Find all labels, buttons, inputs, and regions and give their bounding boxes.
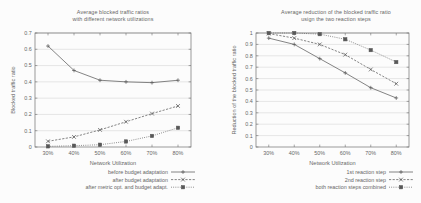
series-3	[46, 126, 179, 148]
marker-plus	[394, 96, 398, 100]
x-axis-label: Network Utilization	[309, 160, 355, 166]
marker-square	[267, 31, 270, 34]
y-tick-label: 0.9	[245, 41, 253, 47]
chart-left-canvas: Average blocked traffic ratioswith diffe…	[0, 0, 205, 203]
y-tick-label: 0	[250, 144, 253, 150]
marker-square	[344, 38, 347, 41]
y-tick-label: 0.1	[24, 128, 32, 134]
x-tick-label: 60%	[340, 150, 351, 156]
marker-plus	[343, 71, 347, 75]
x-tick-label: 50%	[314, 150, 325, 156]
marker-square	[318, 32, 321, 35]
series-2	[46, 104, 180, 143]
x-tick-label: 30%	[263, 150, 274, 156]
x-tick-label: 40%	[69, 150, 80, 156]
chart-title-line: Average blocked traffic ratios	[77, 9, 150, 15]
y-tick-label: 0.8	[245, 53, 253, 59]
y-tick-label: 0.3	[245, 110, 253, 116]
marker-square	[124, 140, 127, 143]
marker-cross	[124, 120, 128, 124]
marker-cross	[150, 112, 154, 116]
marker-plus	[98, 78, 102, 82]
chart-right-canvas: Average reduction of the blocked traffic…	[205, 0, 421, 203]
marker-plus	[176, 78, 180, 82]
y-axis-label: Blocked traffic ratio	[10, 66, 16, 113]
x-tick-label: 70%	[365, 150, 376, 156]
series-line	[269, 34, 397, 84]
marker-cross	[72, 135, 76, 139]
marker-square	[399, 186, 402, 189]
marker-cross	[394, 82, 398, 86]
marker-cross	[176, 104, 180, 108]
series-line	[269, 38, 397, 98]
marker-square	[369, 48, 372, 51]
y-tick-label: 0.2	[24, 111, 32, 117]
x-axis: 30%40%50%60%70%80%	[43, 33, 184, 156]
marker-cross	[369, 68, 373, 72]
y-tick-label: 0.3	[24, 95, 32, 101]
x-tick-label: 80%	[173, 150, 184, 156]
marker-square	[150, 134, 153, 137]
legend-label: before budget adaptation	[108, 169, 168, 175]
marker-plus	[124, 80, 128, 84]
series-1	[267, 36, 398, 100]
marker-cross	[181, 178, 185, 182]
y-tick-label: 0.4	[24, 79, 32, 85]
legend: 1st reaction step2nd reaction stepboth r…	[316, 169, 413, 190]
legend: before budget adaptationafter budget ada…	[86, 169, 195, 190]
legend-label: 1st reaction step	[346, 169, 386, 175]
y-tick-label: 0.5	[245, 87, 253, 93]
marker-square	[72, 144, 75, 147]
y-tick-label: 0.2	[245, 121, 253, 127]
x-tick-label: 80%	[391, 150, 402, 156]
marker-plus	[399, 170, 403, 174]
marker-square	[181, 186, 184, 189]
x-tick-label: 60%	[121, 150, 132, 156]
y-tick-label: 0.6	[24, 46, 32, 52]
chart-title-line: Average reduction of the blocked traffic…	[281, 9, 391, 15]
series-line	[48, 46, 178, 83]
series-line	[48, 106, 178, 141]
y-tick-label: 1	[250, 30, 253, 36]
marker-cross	[399, 178, 403, 182]
x-tick-label: 50%	[95, 150, 106, 156]
chart-right: Average reduction of the blocked traffic…	[205, 0, 421, 203]
chart-left: Average blocked traffic ratioswith diffe…	[0, 0, 205, 203]
marker-square	[46, 145, 49, 148]
marker-plus	[181, 170, 185, 174]
series-3	[267, 31, 398, 63]
y-tick-label: 0.5	[24, 62, 32, 68]
x-tick-label: 30%	[43, 150, 54, 156]
y-tick-label: 0.7	[245, 64, 253, 70]
y-tick-label: 0.6	[245, 76, 253, 82]
y-tick-label: 0.4	[245, 98, 253, 104]
gridlines	[35, 33, 191, 131]
marker-plus	[150, 81, 154, 85]
marker-plus	[369, 86, 373, 90]
legend-label: after budget adaptation	[113, 177, 168, 183]
legend-label: both reaction steps combined	[316, 184, 386, 190]
chart-title-line: usign the two reaction steps	[301, 16, 371, 22]
marker-plus	[318, 57, 322, 61]
marker-square	[293, 31, 296, 34]
legend-label: 2nd reaction step	[345, 177, 386, 183]
gridlines	[256, 33, 409, 136]
legend-label: after metric opt. and budget adapt.	[86, 184, 168, 190]
marker-plus	[267, 36, 271, 40]
plot-frame	[35, 33, 191, 147]
y-axis-label: Reduction of the blocked traffic ratio	[231, 45, 237, 134]
figure-pair: Average blocked traffic ratioswith diffe…	[0, 0, 421, 203]
x-tick-label: 70%	[147, 150, 158, 156]
x-axis-label: Network Utilization	[90, 160, 136, 166]
y-tick-label: 0.7	[24, 30, 32, 36]
marker-square	[176, 126, 179, 129]
chart-title-line: with different network utilizations	[71, 16, 153, 22]
marker-plus	[292, 43, 296, 47]
y-tick-label: 0.1	[245, 133, 253, 139]
marker-square	[98, 143, 101, 146]
series-1	[46, 44, 180, 84]
series-2	[267, 32, 398, 86]
x-tick-label: 40%	[289, 150, 300, 156]
y-tick-label: 0	[29, 144, 32, 150]
marker-square	[395, 60, 398, 63]
